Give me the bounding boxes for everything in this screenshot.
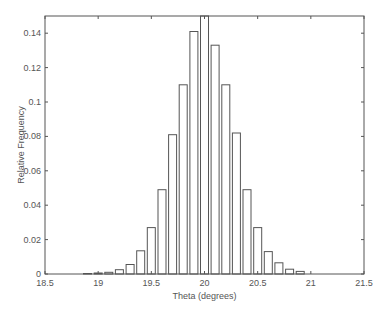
histogram-bar: [115, 270, 123, 274]
y-tick-label: 0.12: [23, 63, 41, 73]
histogram-bar: [254, 228, 262, 274]
histogram-bar: [243, 190, 251, 274]
y-axis-label: Relative Frequency: [16, 106, 26, 184]
histogram-bar: [158, 190, 166, 274]
y-tick-label: 0: [36, 269, 41, 279]
histogram-bar: [222, 85, 230, 274]
x-tick-label: 19.5: [143, 278, 161, 288]
histogram-bar: [201, 16, 209, 274]
histogram-bar: [190, 32, 198, 275]
x-tick-label: 20: [199, 278, 209, 288]
x-tick-label: 19: [93, 278, 103, 288]
y-tick-label: 0.14: [23, 28, 41, 38]
histogram-bar: [137, 251, 145, 274]
y-tick-label: 0.04: [23, 200, 41, 210]
y-tick-label: 0.1: [28, 97, 41, 107]
x-tick-label: 21.5: [355, 278, 373, 288]
x-axis-label: Theta (degrees): [172, 291, 236, 301]
x-tick-label: 21: [306, 278, 316, 288]
histogram-bar: [179, 85, 187, 274]
histogram-bar: [275, 263, 283, 274]
x-tick-label: 18.5: [36, 278, 54, 288]
histogram-bar: [232, 133, 240, 274]
y-tick-label: 0.02: [23, 235, 41, 245]
x-tick-label: 20.5: [249, 278, 267, 288]
histogram-chart: 18.51919.52020.52121.5 00.020.040.060.08…: [0, 0, 386, 309]
histogram-bars: [84, 16, 305, 274]
histogram-bar: [286, 269, 294, 274]
y-tick-label: 0.08: [23, 131, 41, 141]
y-tick-label: 0.06: [23, 166, 41, 176]
histogram-bar: [211, 45, 219, 274]
histogram-bar: [264, 252, 272, 274]
histogram-bar: [126, 265, 134, 275]
histogram-bar: [169, 135, 177, 274]
histogram-bar: [147, 228, 155, 274]
